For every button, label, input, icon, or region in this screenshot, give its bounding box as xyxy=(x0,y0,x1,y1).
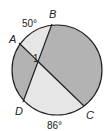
arc-dc-label: 86° xyxy=(47,120,62,131)
angle-1-label: 1 xyxy=(33,53,39,64)
arc-ab-label: 50° xyxy=(22,18,37,29)
label-d: D xyxy=(15,105,23,117)
label-a: A xyxy=(8,33,16,45)
label-c: C xyxy=(86,109,94,121)
label-b: B xyxy=(49,8,56,20)
diagram: B A D C 1 50° 86° xyxy=(0,0,105,131)
